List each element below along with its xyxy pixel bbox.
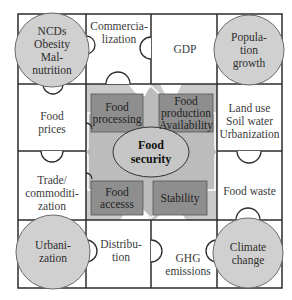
text-line: security: [131, 152, 172, 166]
text-line: zation: [39, 252, 67, 265]
label-food-prices: Food prices: [18, 108, 86, 138]
text-line: tion: [112, 251, 130, 264]
text-line: Popula-: [231, 31, 267, 44]
text-line: production: [161, 107, 211, 119]
text-line: Stability: [161, 192, 200, 204]
text-line: Climate: [230, 241, 266, 254]
text-line: Soil water: [226, 115, 273, 128]
text-line: lization: [102, 33, 137, 46]
text-line: processing: [92, 113, 141, 125]
text-line: tion: [240, 44, 258, 57]
text-line: Food waste: [223, 185, 276, 198]
label-ghg: GHG emissions: [160, 250, 216, 280]
text-line: prices: [38, 123, 65, 136]
label-trade: Trade/ commoditi- zation: [18, 172, 86, 214]
text-line: Food: [105, 101, 129, 113]
label-urbanization: Urbani- zation: [16, 236, 90, 268]
text-line: growth: [233, 57, 266, 70]
label-population: Popula- tion growth: [215, 28, 283, 72]
label-stability: Stability: [153, 181, 207, 215]
label-ncds: NCDs Obesity Mal- nutrition: [16, 22, 88, 80]
text-line: Distribu-: [100, 238, 142, 251]
text-line: nutrition: [32, 64, 72, 77]
text-line: Food: [40, 110, 64, 123]
text-line: NCDs: [38, 25, 67, 38]
label-food-processing: Food processing: [91, 94, 143, 132]
text-line: Mal-: [41, 51, 63, 64]
text-line: Trade/: [37, 174, 67, 187]
text-line: Food: [105, 186, 129, 198]
label-commercialization: Commercia- lization: [88, 18, 150, 48]
text-line: change: [232, 254, 265, 267]
text-line: Commercia-: [90, 20, 147, 33]
label-food-waste: Food waste: [217, 180, 282, 202]
text-line: Availability: [159, 119, 213, 131]
label-climate: Climate change: [214, 238, 282, 270]
text-line: Urbani-: [35, 239, 71, 252]
text-line: Food: [174, 95, 198, 107]
label-gdp: GDP: [153, 38, 217, 60]
text-line: emissions: [165, 265, 210, 278]
label-food-access: Food accesss: [91, 181, 143, 215]
text-line: accesss: [100, 198, 134, 210]
text-line: GHG: [176, 252, 201, 265]
text-line: Land use: [229, 102, 271, 115]
text-line: GDP: [173, 43, 196, 56]
label-land-use: Land use Soil water Urbanization: [217, 100, 282, 142]
text-line: Obesity: [34, 38, 70, 51]
text-line: Urbanization: [219, 128, 279, 141]
label-food-production: Food production Availability: [159, 94, 213, 132]
label-food-security: Food security: [113, 136, 189, 168]
text-line: Food: [138, 138, 164, 152]
label-distribution: Distribu- tion: [92, 236, 150, 266]
text-line: zation: [38, 200, 66, 213]
text-line: commoditi-: [25, 187, 79, 200]
